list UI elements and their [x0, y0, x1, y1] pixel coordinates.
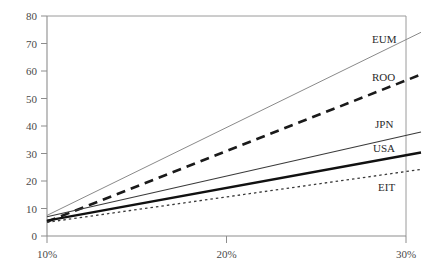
series-label-eit: EIT: [378, 181, 395, 193]
y-tick-label: 30: [26, 148, 38, 160]
line-chart: 80 70 60 50 40 30 20 10 0 10% 20% 30%: [0, 0, 445, 268]
x-axis-ticks: [47, 236, 406, 243]
y-tick-label: 0: [32, 230, 38, 242]
series-label-eum: EUM: [372, 33, 397, 45]
plot-frame: [47, 16, 406, 236]
y-tick-label: 20: [26, 175, 38, 187]
series-line-usa: [47, 153, 421, 221]
series-line-eit: [47, 169, 421, 222]
series-line-roo: [47, 75, 421, 222]
y-axis-tick-labels: 80 70 60 50 40 30 20 10 0: [26, 10, 38, 242]
x-axis-tick-labels: 10% 20% 30%: [37, 248, 416, 260]
y-tick-label: 70: [26, 38, 38, 50]
series-line-jpn: [47, 132, 421, 217]
x-tick-label: 20%: [216, 248, 236, 260]
series-label-usa: USA: [373, 142, 395, 154]
y-tick-label: 10: [26, 203, 38, 215]
y-tick-label: 40: [26, 120, 38, 132]
series-labels: EUM ROO JPN USA EIT: [372, 33, 397, 193]
x-tick-label: 30%: [396, 248, 416, 260]
y-tick-label: 50: [26, 93, 38, 105]
x-tick-label: 10%: [37, 248, 57, 260]
y-axis-ticks: [41, 16, 47, 236]
y-tick-label: 80: [26, 10, 38, 22]
chart-svg: 80 70 60 50 40 30 20 10 0 10% 20% 30%: [0, 0, 445, 268]
series-label-jpn: JPN: [375, 118, 393, 130]
series-lines: [47, 32, 421, 222]
series-label-roo: ROO: [372, 71, 395, 83]
y-tick-label: 60: [26, 65, 38, 77]
series-line-eum: [47, 32, 421, 215]
